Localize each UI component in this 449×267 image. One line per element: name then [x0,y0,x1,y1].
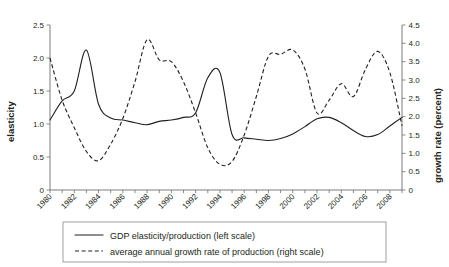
x-axis-tick-labels: 1980198219841986198819901992199419961998… [35,192,394,211]
x-axis-tick-label: 1996 [229,192,248,211]
y-axis-left-tick-label: 1.5 [33,87,45,96]
x-axis-tick-label: 1982 [59,192,78,211]
y-axis-right-title: growth rate (percent) [432,88,443,183]
legend: GDP elasticity/production (left scale) a… [63,222,386,262]
y-axis-right-tick-label: 0 [409,186,414,195]
x-axis-minor-ticks [50,190,402,193]
y-axis-left-ticks: 00.51.01.52.02.5 [33,21,50,195]
x-axis-tick-label: 1990 [156,192,175,211]
x-axis-tick-label: 1984 [84,192,103,211]
x-axis-tick-label: 2000 [278,192,297,211]
y-axis-right-ticks: 00.51.01.52.02.53.03.54.04.5 [402,21,420,195]
x-axis-tick-label: 1986 [108,192,127,211]
y-axis-right-tick-label: 0.5 [409,167,421,176]
y-axis-right-tick-label: 3.0 [409,76,421,85]
x-axis-tick-label: 1994 [205,192,224,211]
x-axis-tick-label: 2004 [326,192,345,211]
y-axis-right-tick-label: 4.5 [409,21,421,30]
y-axis-right-tick-label: 2.0 [409,112,421,121]
y-axis-left-tick-label: 2.5 [33,21,45,30]
y-axis-left-tick-label: 0 [40,186,45,195]
y-axis-right-tick-label: 1.0 [409,149,421,158]
chart-figure: 00.51.01.52.02.5 00.51.01.52.02.53.03.54… [0,0,449,267]
x-axis-tick-label: 2008 [375,192,394,211]
y-axis-right-tick-label: 4.0 [409,39,421,48]
y-axis-right-tick-label: 3.5 [409,57,421,66]
y-axis-left-title: elasticity [5,101,16,142]
x-axis-tick-label: 2002 [302,192,321,211]
y-axis-left-tick-label: 0.5 [33,153,45,162]
plot-area: 00.51.01.52.02.5 00.51.01.52.02.53.03.54… [33,21,420,211]
legend-label-gdp-elasticity: GDP elasticity/production (left scale) [110,231,255,241]
y-axis-left-tick-label: 1.0 [33,120,45,129]
legend-label-growth-rate: average annual growth rate of production… [110,247,324,257]
series-line-gdp-elasticity [50,50,402,141]
x-axis-tick-label: 1998 [253,192,272,211]
y-axis-right-tick-label: 1.5 [409,131,421,140]
x-axis-tick-label: 1988 [132,192,151,211]
y-axis-right-tick-label: 2.5 [409,94,421,103]
y-axis-left-tick-label: 2.0 [33,54,45,63]
x-axis-tick-label: 1980 [35,192,54,211]
x-axis-tick-label: 1992 [181,192,200,211]
x-axis-tick-label: 2006 [351,192,370,211]
